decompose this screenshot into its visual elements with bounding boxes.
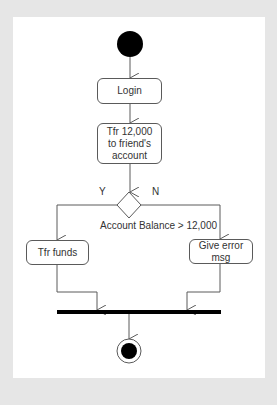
final-node-inner-icon <box>121 343 137 359</box>
action-login: Login <box>97 78 162 104</box>
action-give-error: Give error msg <box>189 239 253 264</box>
decision-condition-label: Account Balance > 12,000 <box>100 220 217 231</box>
join-bar <box>57 310 221 314</box>
guard-label-no: N <box>152 186 159 197</box>
edge-transferfunds-join <box>57 265 97 310</box>
decision-diamond-icon <box>117 192 141 218</box>
diagram-svg <box>0 0 277 405</box>
action-transfer-to-friend: Tfr 12,000 to friend's account <box>97 123 162 164</box>
action-transfer-funds: Tfr funds <box>26 240 89 265</box>
initial-node-icon <box>117 31 143 57</box>
edge-error-join <box>187 264 220 310</box>
guard-label-yes: Y <box>99 186 106 197</box>
